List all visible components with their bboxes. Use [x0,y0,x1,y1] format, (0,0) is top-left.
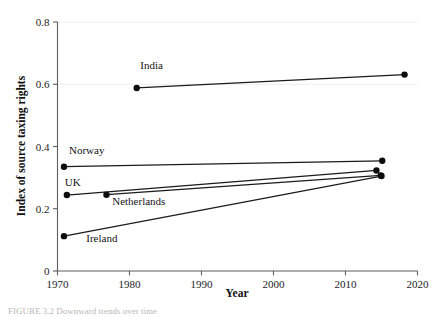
x-tick-label: 2000 [263,278,286,290]
data-point-india [401,71,407,77]
data-point-norway [61,164,67,170]
series-line-india [137,75,405,88]
data-point-india [134,85,140,91]
series-label-netherlands: Netherlands [112,195,165,207]
y-tick-label: 0.2 [36,203,50,215]
data-point-norway [379,158,385,164]
x-tick-label: 2010 [335,278,358,290]
y-tick-label: 0 [44,265,50,277]
series-line-netherlands [106,175,380,194]
y-tick-label: 0.4 [36,141,50,153]
data-point-uk [64,192,70,198]
series-label-uk: UK [65,176,81,188]
y-axis-title: Index of source taxing rights [15,75,28,216]
figure-caption: FIGURE 3.2 Downward trends over time [8,306,157,316]
line-chart: 00.20.40.60.8 197019801990200020102020 I… [0,0,441,317]
data-point-netherlands [103,192,109,198]
y-tick-label: 0.8 [36,16,50,28]
series-label-norway: Norway [69,144,105,156]
data-point-ireland [378,173,384,179]
series-label-india: India [140,59,163,71]
figure-container: 00.20.40.60.8 197019801990200020102020 I… [0,0,441,317]
x-tick-label: 1970 [47,278,70,290]
series-group [61,71,408,239]
data-point-ireland [61,233,67,239]
y-axis-ticks: 00.20.40.60.8 [36,16,58,277]
x-tick-label: 1990 [191,278,214,290]
x-axis-title: Year [226,287,249,299]
series-line-norway [64,161,382,167]
series-line-uk [67,170,377,195]
y-tick-label: 0.6 [36,78,50,90]
x-tick-label: 1980 [119,278,142,290]
x-tick-label: 2020 [407,278,430,290]
series-label-ireland: Ireland [86,232,118,244]
data-point-uk [373,167,379,173]
gridlines-group [58,22,418,84]
